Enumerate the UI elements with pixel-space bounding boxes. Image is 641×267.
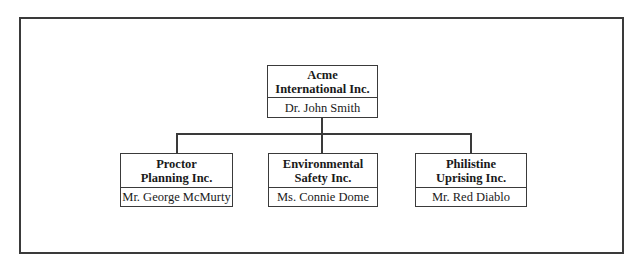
org-name-line2: Safety Inc. [295,171,352,185]
person-name: Ms. Connie Dome [269,188,377,206]
org-node-child-middle: Environmental Safety Inc. Ms. Connie Dom… [268,153,378,207]
org-name-line2: International Inc. [275,82,369,96]
connector-drop-left [176,133,178,154]
connector-horizontal-bar [176,133,472,135]
org-node-child-right: Philistine Uprising Inc. Mr. Red Diablo [415,153,527,207]
person-name: Dr. John Smith [268,98,377,117]
org-name: Environmental Safety Inc. [269,154,377,188]
org-name-line1: Philistine [446,157,496,171]
org-node-root: Acme International Inc. Dr. John Smith [267,65,378,118]
org-name-line2: Planning Inc. [141,171,213,185]
connector-drop-middle [321,133,323,154]
person-name: Mr. Red Diablo [416,188,526,206]
org-name-line1: Acme [307,68,338,82]
org-name-line2: Uprising Inc. [436,171,506,185]
connector-drop-right [470,133,472,154]
org-node-child-left: Proctor Planning Inc. Mr. George McMurty [120,153,233,207]
person-name: Mr. George McMurty [121,188,232,206]
org-name: Acme International Inc. [268,66,377,98]
org-name-line1: Proctor [156,157,197,171]
org-name: Philistine Uprising Inc. [416,154,526,188]
org-name: Proctor Planning Inc. [121,154,232,188]
org-name-line1: Environmental [283,157,363,171]
